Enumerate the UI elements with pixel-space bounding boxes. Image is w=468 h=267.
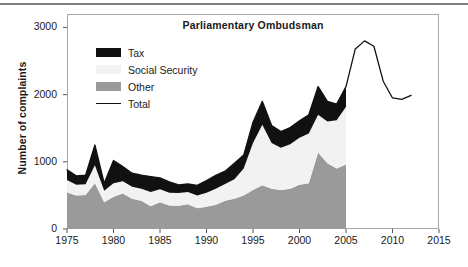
x-tick-label: 2000: [277, 234, 323, 246]
legend-item-social-security: Social Security: [96, 62, 246, 77]
legend-swatch-social-security: [96, 65, 121, 74]
y-tick-label: 2000: [11, 88, 57, 100]
x-tick-label: 2015: [416, 234, 462, 246]
x-tick-label: 1980: [91, 234, 137, 246]
y-tick-label: 3000: [11, 20, 57, 32]
chart-figure: Parliamentary Ombudsman Number of compla…: [0, 0, 468, 267]
legend-swatch-other: [96, 82, 121, 91]
y-tick-label: 1000: [11, 155, 57, 167]
legend-item-total: Total: [96, 96, 246, 111]
x-tick-label: 1995: [230, 234, 276, 246]
y-axis-label: Number of complaints: [16, 38, 28, 198]
x-tick-label: 1985: [137, 234, 183, 246]
legend-label-total: Total: [128, 98, 150, 110]
legend-label-tax: Tax: [128, 47, 144, 59]
x-tick-label: 1975: [44, 234, 90, 246]
legend-label-other: Other: [128, 81, 154, 93]
chart-plot-area: [0, 0, 468, 267]
legend-swatch-tax: [96, 48, 121, 57]
legend-label-social-security: Social Security: [128, 64, 197, 76]
legend-swatch-total: [96, 99, 121, 108]
x-tick-label: 2010: [370, 234, 416, 246]
y-tick-label: 0: [11, 222, 57, 234]
x-tick-label: 1990: [184, 234, 230, 246]
chart-legend: Tax Social Security Other Total: [96, 45, 246, 113]
x-tick-label: 2005: [323, 234, 369, 246]
chart-title: Parliamentary Ombudsman: [67, 19, 439, 31]
legend-item-tax: Tax: [96, 45, 246, 60]
legend-item-other: Other: [96, 79, 246, 94]
